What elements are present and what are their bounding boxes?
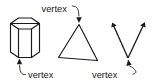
vertex-label-bottom-left: vertex [28, 70, 54, 80]
hexagonal-prism-figure [11, 18, 40, 58]
vertex-diagram-root: vertex vertex vertex [0, 0, 154, 83]
triangle-figure [59, 25, 98, 61]
top-vertex-leader-arrowhead [76, 17, 81, 23]
bottom-right-vertex-leader [126, 59, 136, 74]
angle-ray-right [128, 25, 144, 58]
bottom-left-vertex-leader-line [20, 65, 26, 74]
top-vertex-leader [73, 6, 82, 23]
vertex-diagram-canvas: vertex vertex vertex [0, 0, 154, 83]
vertex-label-top: vertex [42, 4, 68, 14]
bottom-left-vertex-leader-arrowhead [17, 59, 22, 65]
angle-ray-left [113, 25, 128, 58]
prism-front-middle-face-fill [19, 29, 32, 58]
bottom-right-vertex-leader-line [130, 66, 136, 74]
angle-figure [111, 22, 145, 58]
bottom-left-vertex-leader [17, 59, 26, 75]
bottom-right-vertex-leader-arrowhead [126, 59, 131, 66]
triangle-outline [59, 25, 98, 61]
top-vertex-leader-line [73, 6, 79, 16]
vertex-label-bottom-right: vertex [92, 70, 118, 80]
